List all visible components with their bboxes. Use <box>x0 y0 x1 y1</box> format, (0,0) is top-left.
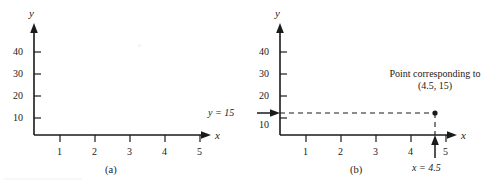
panel-a-x-tick-5: 5 <box>197 147 202 157</box>
panel-b-x-tick-3: 3 <box>373 147 378 157</box>
panel-b-x-tick-2: 2 <box>338 147 343 157</box>
panel-a-y-tick-10: 10 <box>13 113 23 123</box>
panel-a: y x 40 30 20 10 1 2 3 4 5 (a) <box>0 0 242 186</box>
figure-two-panel-coordinate-plane: y x 40 30 20 10 1 2 3 4 5 (a) <box>0 0 484 186</box>
panel-b-x-axis-label: x <box>461 130 466 141</box>
panel-b-caption: (b) <box>350 165 362 176</box>
panel-a-x-tick-3: 3 <box>127 147 132 157</box>
panel-a-axes <box>0 0 242 186</box>
x-value-label: x = 4.5 <box>412 163 441 173</box>
panel-a-y-axis-label: y <box>29 8 34 19</box>
panel-b-x-tick-4: 4 <box>408 147 413 157</box>
panel-a-y-tick-20: 20 <box>13 91 23 101</box>
panel-b-y-tick-20: 20 <box>259 91 269 101</box>
panel-a-x-tick-4: 4 <box>162 147 167 157</box>
panel-b-y-tick-40: 40 <box>259 47 269 57</box>
panel-a-x-tick-2: 2 <box>92 147 97 157</box>
panel-b-x-tick-5: 5 <box>443 147 448 157</box>
panel-b-y-tick-30: 30 <box>259 69 269 79</box>
panel-b-x-tick-1: 1 <box>303 147 308 157</box>
y-value-pointer-arrow <box>257 109 280 117</box>
panel-a-caption: (a) <box>105 165 117 176</box>
panel-a-y-tick-30: 30 <box>13 69 23 79</box>
scan-artifact-edge <box>4 178 82 180</box>
panel-a-y-tick-40: 40 <box>13 47 23 57</box>
panel-b: y x 40 30 20 10 1 2 3 4 5 y = 15 x = 4.5… <box>242 0 484 186</box>
x-value-pointer-arrow <box>431 135 439 158</box>
panel-b-y-tick-10: 10 <box>259 120 269 130</box>
point-marker-4.5-15 <box>432 110 437 115</box>
panel-a-x-tick-1: 1 <box>57 147 62 157</box>
panel-b-axes <box>242 0 484 186</box>
y-value-label: y = 15 <box>208 108 234 118</box>
point-annotation: Point corresponding to (4.5, 15) <box>389 68 481 92</box>
scan-artifact <box>138 44 141 47</box>
panel-b-y-axis-label: y <box>275 8 280 19</box>
panel-a-x-axis-label: x <box>215 130 220 141</box>
